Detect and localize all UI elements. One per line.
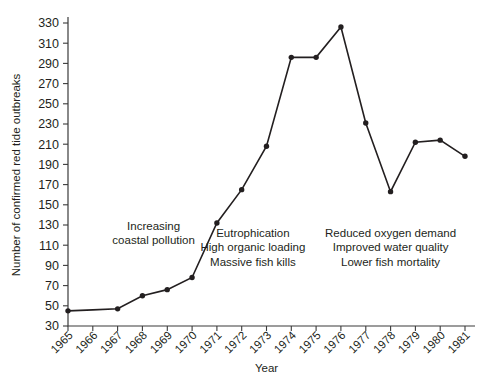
x-axis-title-text: Year (255, 362, 278, 374)
data-point-marker (413, 139, 418, 144)
x-axis-tick-label: 1969 (148, 329, 175, 356)
y-axis-tick-label: 170 (38, 178, 59, 192)
x-axis-tick-label: 1966 (73, 329, 100, 356)
y-axis-tick-label: 150 (38, 198, 59, 212)
y-axis-title-text: Number of confirmed red tide outbreaks (10, 73, 22, 276)
annotation-line: Increasing (127, 220, 180, 232)
x-axis-tick-label: 1974 (272, 329, 299, 356)
data-point-markers (65, 24, 467, 313)
x-axis-tick-label: 1979 (396, 329, 423, 356)
y-axis-tick-label: 250 (38, 97, 59, 111)
y-axis-ticks: 3303102902702502302101901701501301109070… (38, 16, 68, 333)
x-axis-tick-label: 1970 (172, 329, 199, 356)
data-point-marker (338, 24, 343, 29)
chart-canvas: Number of confirmed red tide outbreaks 3… (0, 0, 483, 378)
axis-lines (68, 17, 475, 326)
y-axis-tick-label: 230 (38, 117, 59, 131)
x-axis-tick-label: 1978 (371, 329, 398, 356)
y-axis-tick-label: 50 (45, 299, 59, 313)
annotation-eutrophication-note: EutrophicationHigh organic loadingMassiv… (200, 227, 305, 267)
data-point-marker (165, 287, 170, 292)
annotation-line: Massive fish kills (210, 256, 296, 268)
data-point-marker (115, 306, 120, 311)
y-axis-tick-label: 90 (45, 259, 59, 273)
x-axis-tick-label: 1981 (445, 329, 472, 356)
x-axis-tick-label: 1976 (321, 329, 348, 356)
chart-annotations: Increasingcoastal pollutionEutrophicatio… (112, 220, 456, 268)
annotation-line: Reduced oxygen demand (325, 227, 456, 239)
x-axis-tick-label: 1975 (296, 329, 323, 356)
data-point-marker (140, 293, 145, 298)
data-point-marker (462, 154, 467, 159)
data-point-marker (437, 137, 442, 142)
y-axis-tick-label: 70 (45, 279, 59, 293)
annotation-increasing-coastal-pollution: Increasingcoastal pollution (112, 220, 194, 246)
annotation-line: coastal pollution (112, 234, 194, 246)
annotation-line: Lower fish mortality (341, 256, 440, 268)
data-point-marker (313, 55, 318, 60)
data-series-line (68, 27, 465, 311)
y-axis-tick-label: 110 (39, 239, 59, 253)
red-tide-outbreaks-chart-figure: Number of confirmed red tide outbreaks 3… (0, 0, 483, 378)
x-axis-tick-label: 1968 (123, 329, 150, 356)
annotation-reduced-oxygen-demand-note: Reduced oxygen demandImproved water qual… (325, 227, 456, 267)
x-axis-tick-label: 1980 (421, 329, 448, 356)
y-axis-tick-label: 270 (38, 77, 59, 91)
data-point-marker (65, 308, 70, 313)
annotation-line: Improved water quality (333, 241, 449, 253)
y-axis-tick-label: 130 (38, 218, 59, 232)
x-axis-tick-label: 1967 (98, 329, 125, 356)
data-point-marker (289, 55, 294, 60)
data-point-marker (363, 120, 368, 125)
y-axis-tick-label: 210 (38, 138, 59, 152)
x-axis-tick-label: 1971 (197, 329, 224, 356)
y-axis-tick-label: 330 (38, 16, 59, 30)
y-axis-tick-label: 190 (38, 158, 59, 172)
data-point-marker (214, 220, 219, 225)
data-point-marker (388, 189, 393, 194)
x-axis-tick-label: 1977 (346, 329, 373, 356)
y-axis-tick-label: 310 (38, 37, 59, 51)
x-axis-tick-label: 1972 (222, 329, 249, 356)
y-axis-title: Number of confirmed red tide outbreaks (10, 73, 22, 276)
data-point-marker (239, 187, 244, 192)
data-point-marker (189, 275, 194, 280)
annotation-line: High organic loading (200, 241, 305, 253)
x-axis-tick-label: 1973 (247, 329, 274, 356)
data-point-marker (264, 144, 269, 149)
annotation-line: Eutrophication (216, 227, 290, 239)
x-axis-ticks: 1965196619671968196919701971197219731974… (48, 326, 472, 356)
y-axis-tick-label: 290 (38, 57, 59, 71)
y-axis-tick-label: 30 (45, 319, 59, 333)
